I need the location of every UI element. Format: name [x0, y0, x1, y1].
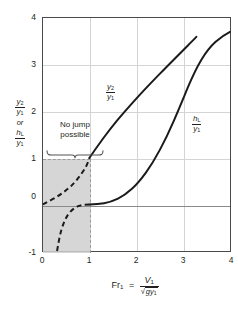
- y-tick-0: 0: [22, 192, 36, 201]
- y-tick-1: 1: [22, 154, 36, 163]
- x-tick-3: 3: [176, 256, 190, 265]
- curve-hLy1-solid: [90, 32, 230, 205]
- x-axis-title: Fr1 = V1 √gy1: [60, 276, 210, 296]
- y-tick-neg1: -1: [18, 248, 36, 257]
- no-jump-line-1: No jump: [60, 120, 90, 129]
- x-tick-2: 2: [129, 256, 143, 265]
- no-jump-line-2: possible: [60, 130, 89, 139]
- chart-figure: y2 y1 or hL y1 4 3 2 1 0 -1 0 1 2 3 4: [0, 0, 238, 316]
- sqrt-icon: √gy1: [141, 287, 158, 296]
- curve-y2y1-dashed: [43, 158, 90, 205]
- y-tick-2: 2: [22, 107, 36, 116]
- curve-label-y2y1: y2 y1: [106, 83, 115, 102]
- x-tick-1: 1: [82, 256, 96, 265]
- y-axis-title-frac-2: hL y1: [15, 129, 24, 148]
- x-tick-4: 4: [224, 256, 238, 265]
- curve-hLy1-dashed: [57, 204, 89, 251]
- x-axis-title-equals: =: [129, 280, 134, 290]
- x-axis-title-frac: V1 √gy1: [140, 276, 159, 296]
- y-tick-3: 3: [22, 60, 36, 69]
- x-tick-0: 0: [35, 256, 49, 265]
- curly-brace-icon: [46, 150, 104, 159]
- y-axis-title-or: or: [2, 119, 38, 128]
- x-axis-title-fr: Fr1: [111, 280, 123, 290]
- no-jump-annotation: No jump possible: [47, 120, 103, 140]
- curve-label-hLy1: hL y1: [192, 115, 201, 134]
- y-tick-4: 4: [22, 13, 36, 22]
